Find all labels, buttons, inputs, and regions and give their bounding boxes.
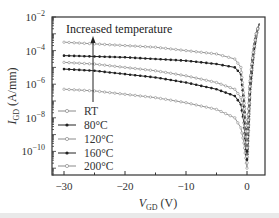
y-tick-label: 10−2 — [25, 9, 45, 23]
bottom-divider — [0, 213, 279, 218]
annotation-text: Increased temperature — [66, 22, 172, 36]
y-axis: 10−210−410−610−810−10 — [21, 9, 56, 175]
y-tick-label: 10−10 — [21, 143, 45, 157]
y-tick-label: 10−6 — [25, 76, 45, 90]
legend-label: 80°C — [84, 119, 108, 131]
x-axis-label: VGD (V) — [139, 196, 178, 212]
y-axis-label: IGD (A/mm) — [5, 67, 21, 125]
chart: −30−20−10010−210−410−610−810−10VGD (V)IG… — [0, 0, 279, 218]
filled-marker-icon — [65, 123, 68, 126]
legend-label: 200°C — [84, 160, 114, 172]
legend-label: 160°C — [84, 147, 114, 159]
x-tick-label: −20 — [116, 180, 134, 192]
x-axis: −30−20−100 — [55, 171, 250, 192]
legend: RT80°C120°C160°C200°C — [58, 105, 114, 172]
x-tick-label: −30 — [55, 180, 73, 192]
legend-item: 160°C — [58, 147, 114, 159]
legend-label: RT — [84, 105, 98, 117]
legend-label: 120°C — [84, 133, 114, 145]
x-tick-label: 0 — [244, 180, 250, 192]
open-marker-icon — [65, 164, 68, 167]
filled-marker-icon — [65, 151, 68, 154]
legend-item: RT — [58, 105, 98, 117]
open-marker-icon — [65, 109, 68, 112]
x-tick-label: −10 — [177, 180, 195, 192]
y-tick-label: 10−4 — [25, 43, 45, 57]
legend-item: 120°C — [58, 133, 114, 145]
legend-item: 80°C — [58, 119, 108, 131]
open-marker-icon — [65, 137, 68, 140]
y-tick-label: 10−8 — [25, 110, 45, 124]
legend-item: 200°C — [58, 160, 114, 172]
